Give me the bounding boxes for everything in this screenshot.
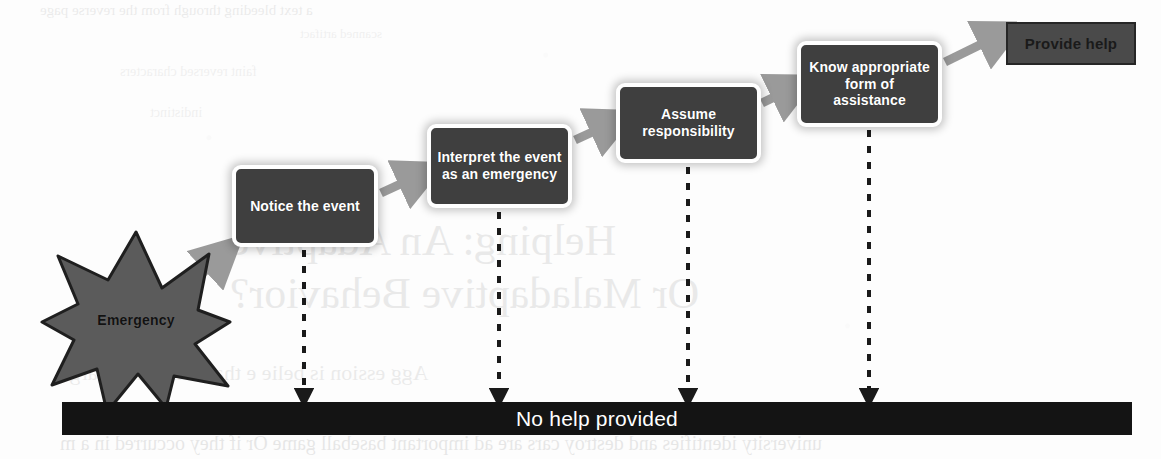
step-know-appropriate-form-of-assistance[interactable]: Know appropriate form of assistance bbox=[797, 41, 942, 127]
step-label: Know appropriate form of assistance bbox=[807, 59, 932, 109]
outcome-label: Provide help bbox=[1025, 35, 1117, 52]
bleed-text-line1: a text bleeding through from the reverse… bbox=[40, 2, 313, 19]
arrow-interpret-to-responsibility bbox=[575, 123, 612, 140]
diagram-canvas: a text bleeding through from the reverse… bbox=[0, 0, 1161, 459]
step-label: Assume responsibility bbox=[626, 106, 751, 139]
outcome-label: No help provided bbox=[516, 407, 678, 431]
outcome-no-help-provided[interactable]: No help provided bbox=[62, 402, 1132, 435]
outcome-provide-help[interactable]: Provide help bbox=[1006, 22, 1136, 65]
arrow-know-to-provide-help bbox=[945, 35, 1000, 62]
step-label: Notice the event bbox=[250, 198, 360, 215]
emergency-label: Emergency bbox=[97, 312, 174, 328]
step-assume-responsibility[interactable]: Assume responsibility bbox=[616, 83, 761, 163]
arrow-notice-to-interpret bbox=[381, 175, 420, 193]
bleed-text-line3: faint reversed characters bbox=[120, 64, 257, 80]
step-notice-the-event[interactable]: Notice the event bbox=[232, 165, 378, 247]
emergency-starburst[interactable]: Emergency bbox=[38, 226, 234, 414]
bleed-text-line8: university identifies and destroy cars a… bbox=[60, 432, 822, 455]
step-label: Interpret the event as an emergency bbox=[437, 149, 562, 182]
bleed-text-line4: indistinct bbox=[150, 105, 202, 121]
step-interpret-event-as-emergency[interactable]: Interpret the event as an emergency bbox=[427, 124, 572, 208]
bleed-text-line2: scanned artifact bbox=[300, 26, 382, 42]
arrow-responsibility-to-know bbox=[762, 88, 793, 103]
bleed-text-line6: Or Maladaptive Behavior? bbox=[230, 268, 699, 319]
